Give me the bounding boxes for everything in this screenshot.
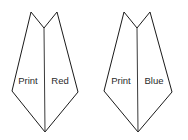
label-right-blue: Blue (144, 75, 163, 86)
shape-left-print-red[interactable]: Print Red (12, 12, 78, 132)
label-left-red: Red (51, 75, 68, 86)
label-left-print: Print (18, 75, 38, 86)
diagram-canvas: Print Red Print Blue (0, 0, 188, 140)
shape-right-print-blue[interactable]: Print Blue (104, 12, 172, 132)
label-right-print: Print (111, 75, 131, 86)
